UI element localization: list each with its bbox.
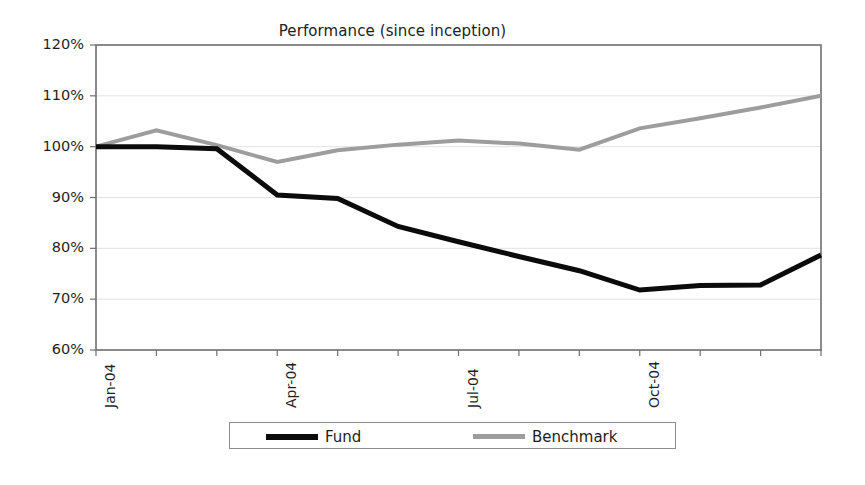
series-line-fund [96,147,821,290]
gridlines [96,96,821,299]
y-axis-tick-label: 80% [22,239,84,255]
x-axis-tick-label: Oct-04 [646,361,662,408]
legend-label-benchmark: Benchmark [532,428,617,446]
y-axis-tick-label: 60% [22,341,84,357]
legend-entry-fund: Fund [266,423,361,450]
legend-swatch-fund-icon [266,434,318,440]
x-axis-tick-label: Apr-04 [283,362,299,408]
x-axis-tick-label: Jul-04 [465,368,481,408]
chart-legend: Fund Benchmark [229,422,676,449]
y-axis-tick-label: 110% [22,87,84,103]
x-axis-tick-label: Jan-04 [102,364,118,408]
plot-area [0,0,865,485]
y-axis-tick-label: 100% [22,138,84,154]
series-line-benchmark [96,96,821,162]
legend-swatch-benchmark-icon [473,434,525,439]
y-axis-tick-label: 70% [22,290,84,306]
y-axis-tick-label: 120% [22,36,84,52]
y-axis-tick-label: 90% [22,189,84,205]
legend-label-fund: Fund [325,428,361,446]
performance-chart: Performance (since inception) 120%110%10… [0,0,865,485]
series-lines [96,96,821,290]
axis-ticks [90,45,821,356]
legend-entry-benchmark: Benchmark [473,423,617,450]
